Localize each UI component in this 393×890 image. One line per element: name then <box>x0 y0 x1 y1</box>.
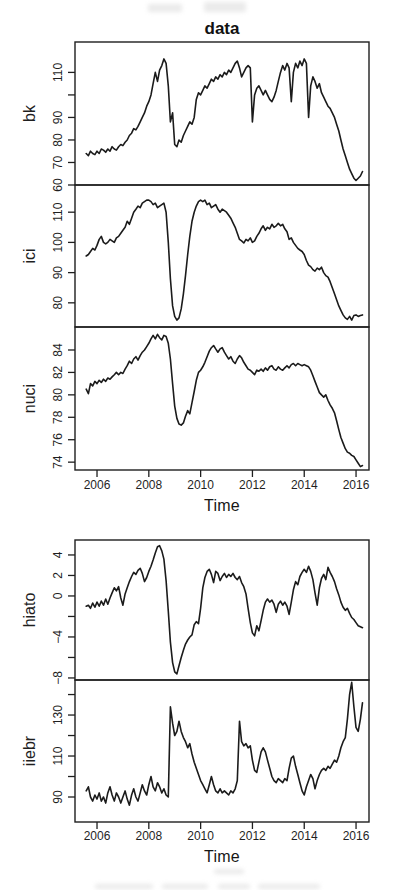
plot-border-bk <box>75 42 369 185</box>
x-tick-label: 2008 <box>135 478 162 492</box>
y-tick-label-nuci: 76 <box>51 433 65 447</box>
y-tick-label-iiebr: 110 <box>51 746 65 765</box>
x-axis-title: Time <box>75 848 369 866</box>
y-tick-label-hiato: 0 <box>51 592 65 599</box>
x-tick-label: 2016 <box>343 478 370 492</box>
y-tick-label-nuci: 74 <box>51 455 65 469</box>
plot-border-ici <box>75 185 369 327</box>
faint-caption-remnant <box>218 884 250 889</box>
x-tick-label: 2010 <box>187 478 214 492</box>
y-tick-label-nuci: 80 <box>51 388 65 402</box>
figure-bottom-panels: −8−4024hiato90110130iiebr200620082010201… <box>0 520 393 890</box>
faint-caption-remnant <box>214 869 244 874</box>
panel-ylabel-ici: ici <box>21 248 38 263</box>
x-tick-label: 2010 <box>187 829 214 843</box>
x-axis-title: Time <box>75 497 369 515</box>
y-tick-label-nuci: 82 <box>51 365 65 379</box>
y-tick-label-iiebr: 130 <box>51 705 65 725</box>
faint-caption-remnant <box>162 884 208 889</box>
y-tick-label-iiebr: 90 <box>51 790 65 804</box>
y-tick-label-hiato: −4 <box>51 630 65 644</box>
y-tick-label-bk: 90 <box>51 110 65 124</box>
y-tick-label-nuci: 78 <box>51 410 65 424</box>
x-tick-label: 2014 <box>291 478 318 492</box>
y-tick-label-ici: 90 <box>51 266 65 280</box>
series-line-iiebr <box>86 682 362 805</box>
x-tick-label: 2006 <box>84 478 111 492</box>
series-line-bk <box>86 59 362 181</box>
y-tick-label-ici: 110 <box>51 202 65 221</box>
y-tick-label-bk: 70 <box>51 155 65 169</box>
plot-border-hiato <box>75 540 369 680</box>
y-tick-label-hiato: 2 <box>51 572 65 579</box>
series-line-hiato <box>86 546 362 674</box>
panel-ylabel-bk: bk <box>21 104 38 122</box>
x-tick-label: 2006 <box>84 829 111 843</box>
y-tick-label-nuci: 84 <box>51 343 65 357</box>
series-line-ici <box>86 200 362 320</box>
y-tick-label-ici: 80 <box>51 296 65 310</box>
faint-caption-remnant <box>258 884 320 889</box>
panel-ylabel-hiato: hiato <box>21 593 38 628</box>
x-tick-label: 2014 <box>291 829 318 843</box>
y-tick-label-hiato: 4 <box>51 551 65 558</box>
x-tick-label: 2012 <box>239 478 266 492</box>
figure-top-panels: 60708090110bk8090100110ici747678808284nu… <box>0 0 393 520</box>
x-tick-label: 2016 <box>343 829 370 843</box>
y-tick-label-bk: 110 <box>51 63 65 82</box>
y-tick-label-ici: 100 <box>51 232 65 252</box>
panel-ylabel-iiebr: iiebr <box>21 735 38 766</box>
x-tick-label: 2008 <box>135 829 162 843</box>
series-line-nuci <box>86 334 362 466</box>
y-tick-label-hiato: −8 <box>51 671 65 685</box>
faint-caption-remnant <box>95 884 153 889</box>
y-tick-label-bk: 80 <box>51 133 65 147</box>
panel-ylabel-nuci: nuci <box>21 384 38 413</box>
r-timeseries-screenshot: data 60708090110bk8090100110ici747678808… <box>0 0 393 890</box>
y-tick-label-bk: 60 <box>51 178 65 192</box>
x-tick-label: 2012 <box>239 829 266 843</box>
